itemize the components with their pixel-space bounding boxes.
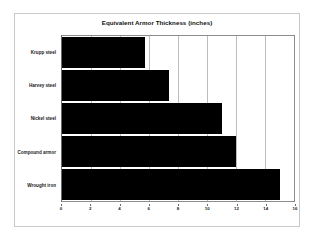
bar-row <box>62 37 294 68</box>
x-axis-tick-label-12: 12 <box>234 206 239 211</box>
x-axis-tick-label-6: 6 <box>148 206 150 211</box>
x-axis-tick-labels: 0246810121416 <box>61 204 295 214</box>
chart-figure: Equivalent Armor Thickness (inches) Krup… <box>14 13 300 227</box>
y-axis-category-labels: Krupp steel Harvey steel Nickel steel Co… <box>15 36 59 202</box>
y-axis-label-krupp-steel: Krupp steel <box>31 50 59 55</box>
x-axis-tick-label-2: 2 <box>89 206 91 211</box>
bar-krupp-steel <box>62 37 145 68</box>
y-axis-label-row: Krupp steel <box>15 37 59 68</box>
y-axis-label-row: Nickel steel <box>15 104 59 135</box>
bar-nickel-steel <box>62 103 222 134</box>
bar-wrought-iron <box>62 169 280 200</box>
y-axis-label-compound-armor: Compound armor <box>17 150 59 155</box>
y-axis-label-harvey-steel: Harvey steel <box>29 83 59 88</box>
x-axis-tick-label-0: 0 <box>60 206 62 211</box>
y-axis-label-row: Compound armor <box>15 137 59 168</box>
x-axis-tick-label-14: 14 <box>263 206 268 211</box>
bar-compound-armor <box>62 136 236 167</box>
bar-series <box>62 36 294 201</box>
x-axis-tick-label-8: 8 <box>177 206 179 211</box>
bar-row <box>62 136 294 167</box>
y-axis-label-nickel-steel: Nickel steel <box>31 116 59 121</box>
y-axis-label-row: Harvey steel <box>15 70 59 101</box>
plot-area <box>61 35 295 202</box>
x-axis-tick-label-16: 16 <box>293 206 298 211</box>
bar-row <box>62 103 294 134</box>
bar-harvey-steel <box>62 70 169 101</box>
bar-row <box>62 169 294 200</box>
chart-title: Equivalent Armor Thickness (inches) <box>15 19 299 26</box>
y-axis-label-row: Wrought iron <box>15 170 59 201</box>
bar-row <box>62 70 294 101</box>
y-axis-label-wrought-iron: Wrought iron <box>27 183 59 188</box>
x-axis-tick-label-10: 10 <box>205 206 210 211</box>
x-axis-tick-label-4: 4 <box>118 206 120 211</box>
